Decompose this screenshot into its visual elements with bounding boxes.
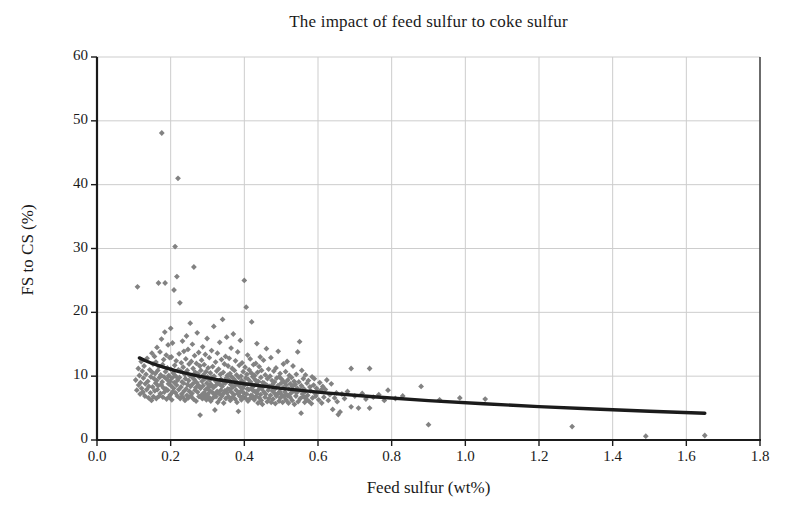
scatter-plot-canvas (0, 0, 801, 522)
x-tick-label: 0.8 (375, 448, 409, 465)
figure: The impact of feed sulfur to coke sulfur… (0, 0, 801, 522)
x-tick-label: 1.2 (522, 448, 556, 465)
scatter-point-cloud (133, 130, 708, 439)
y-tick-label: 20 (48, 302, 88, 319)
y-tick-label: 10 (48, 366, 88, 383)
x-tick-label: 1.8 (743, 448, 777, 465)
y-tick-label: 50 (48, 111, 88, 128)
x-tick-label: 1.4 (596, 448, 630, 465)
y-tick-label: 60 (48, 47, 88, 64)
y-tick-label: 40 (48, 175, 88, 192)
x-tick-label: 0.6 (301, 448, 335, 465)
x-tick-label: 0.2 (154, 448, 188, 465)
x-tick-label: 1.6 (669, 448, 703, 465)
x-tick-label: 0.4 (227, 448, 261, 465)
scatter-points (133, 130, 708, 439)
y-tick-label: 30 (48, 239, 88, 256)
y-tick-label: 0 (48, 430, 88, 447)
x-axis-label: Feed sulfur (wt%) (97, 478, 760, 498)
x-tick-label: 1.0 (448, 448, 482, 465)
x-tick-label: 0.0 (80, 448, 114, 465)
